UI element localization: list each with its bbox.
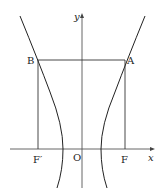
hyperbola-diagram: y x O A B F F′ — [0, 0, 164, 196]
focus-F-prime-label: F′ — [33, 154, 43, 165]
point-B-label: B — [27, 55, 34, 66]
focus-F-label: F — [121, 154, 128, 165]
x-axis-label: x — [148, 152, 154, 163]
origin-label: O — [73, 152, 81, 163]
y-axis-arrow — [80, 13, 84, 18]
point-A-label: A — [126, 55, 135, 66]
y-axis-label: y — [73, 11, 80, 22]
x-axis-arrow — [150, 147, 155, 151]
